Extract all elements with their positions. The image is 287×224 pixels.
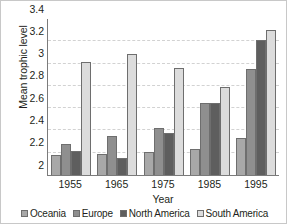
y-tick-label: 2 bbox=[38, 159, 44, 170]
plot-area: 22.22.42.62.833.23.4 bbox=[47, 19, 279, 176]
bar bbox=[200, 103, 210, 175]
legend-item[interactable]: Europe bbox=[73, 208, 113, 219]
legend-item[interactable]: North America bbox=[120, 208, 190, 219]
bar bbox=[164, 133, 174, 175]
chart-figure: Mean trophic level 22.22.42.62.833.23.4 … bbox=[0, 0, 287, 224]
bar-group bbox=[48, 19, 94, 175]
bar bbox=[81, 62, 91, 175]
x-tick-label: 1985 bbox=[186, 178, 232, 190]
x-tick-label: 1965 bbox=[93, 178, 139, 190]
legend-label: North America bbox=[129, 208, 190, 219]
bar-groups bbox=[48, 19, 279, 175]
y-tick-label: 2.4 bbox=[29, 115, 44, 126]
bar-group bbox=[94, 19, 140, 175]
bar bbox=[51, 155, 61, 175]
bar bbox=[220, 87, 230, 175]
bar bbox=[190, 149, 200, 175]
x-tick-label: 1995 bbox=[233, 178, 279, 190]
bar-group bbox=[140, 19, 186, 175]
legend-swatch-icon bbox=[120, 210, 127, 217]
bar bbox=[246, 69, 256, 175]
bar bbox=[107, 136, 117, 175]
chart-legend: OceaniaEuropeNorth AmericaSouth America bbox=[1, 208, 287, 219]
bar bbox=[154, 128, 164, 175]
bar-group bbox=[233, 19, 279, 175]
bar bbox=[266, 30, 276, 175]
bar bbox=[144, 152, 154, 175]
bar bbox=[71, 151, 81, 176]
legend-label: Oceania bbox=[30, 208, 66, 219]
x-tick-label: 1955 bbox=[47, 178, 93, 190]
legend-label: Europe bbox=[82, 208, 113, 219]
bar bbox=[97, 154, 107, 175]
x-axis-title: Year bbox=[47, 193, 279, 205]
legend-label: South America bbox=[206, 208, 268, 219]
y-axis-title: Mean trophic level bbox=[17, 7, 29, 127]
bar-group bbox=[187, 19, 233, 175]
bar bbox=[174, 68, 184, 175]
bar bbox=[127, 54, 137, 175]
legend-swatch-icon bbox=[73, 210, 80, 217]
bar bbox=[256, 40, 266, 175]
bar bbox=[236, 138, 246, 175]
x-axis-ticks: 19551965197519851995 bbox=[47, 178, 279, 190]
bar bbox=[61, 144, 71, 175]
bar bbox=[117, 158, 127, 175]
y-tick-label: 3.2 bbox=[29, 26, 44, 37]
y-tick-label: 2.2 bbox=[29, 137, 44, 148]
y-tick-label: 2.6 bbox=[29, 92, 44, 103]
legend-swatch-icon bbox=[21, 210, 28, 217]
x-tick-label: 1975 bbox=[140, 178, 186, 190]
y-tick-label: 2.8 bbox=[29, 70, 44, 81]
legend-item[interactable]: Oceania bbox=[21, 208, 66, 219]
legend-item[interactable]: South America bbox=[197, 208, 268, 219]
y-tick-label: 3.4 bbox=[29, 3, 44, 14]
y-tick-label: 3 bbox=[38, 48, 44, 59]
bar bbox=[210, 103, 220, 175]
legend-swatch-icon bbox=[197, 210, 204, 217]
